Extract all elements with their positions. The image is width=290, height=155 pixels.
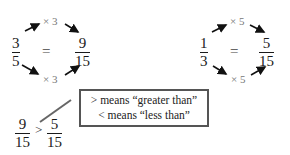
arrow-icon	[250, 25, 264, 32]
fraction-9-15: 9 15	[75, 36, 90, 69]
denominator: 15	[259, 54, 274, 69]
numerator: 5	[263, 36, 271, 51]
denominator: 3	[200, 54, 208, 69]
arrow-icon	[65, 24, 78, 32]
denominator: 5	[12, 54, 20, 69]
denominator: 15	[47, 135, 62, 150]
comparison-right-fraction: 5 15	[47, 117, 62, 150]
fraction-1-3: 1 3	[200, 36, 208, 69]
denominator: 15	[15, 135, 30, 150]
greater-than-sign: >	[35, 122, 42, 138]
arrow-icon	[25, 24, 39, 31]
equals-sign: =	[230, 43, 238, 60]
legend-box: > means “greater than” < means “less tha…	[79, 89, 209, 127]
bottom-multiplier-label: × 3	[43, 73, 57, 85]
denominator: 15	[75, 54, 90, 69]
arrow-icon	[213, 66, 226, 74]
numerator: 9	[19, 117, 27, 132]
arrow-icon	[212, 25, 226, 32]
equals-sign: =	[42, 43, 50, 60]
numerator: 9	[79, 36, 87, 51]
arrow-icon	[22, 65, 38, 74]
numerator: 5	[51, 117, 59, 132]
numerator: 3	[12, 36, 20, 51]
top-multiplier-label: × 3	[43, 15, 57, 27]
fraction-5-15: 5 15	[259, 36, 274, 69]
comparison-left-fraction: 9 15	[15, 117, 30, 150]
fraction-3-5: 3 5	[12, 36, 20, 69]
legend-line-less: < means “less than”	[98, 108, 190, 123]
numerator: 1	[200, 36, 208, 51]
legend-line-greater: > means “greater than”	[91, 93, 197, 108]
top-multiplier-label: × 5	[230, 15, 244, 27]
bottom-multiplier-label: × 5	[231, 73, 245, 85]
